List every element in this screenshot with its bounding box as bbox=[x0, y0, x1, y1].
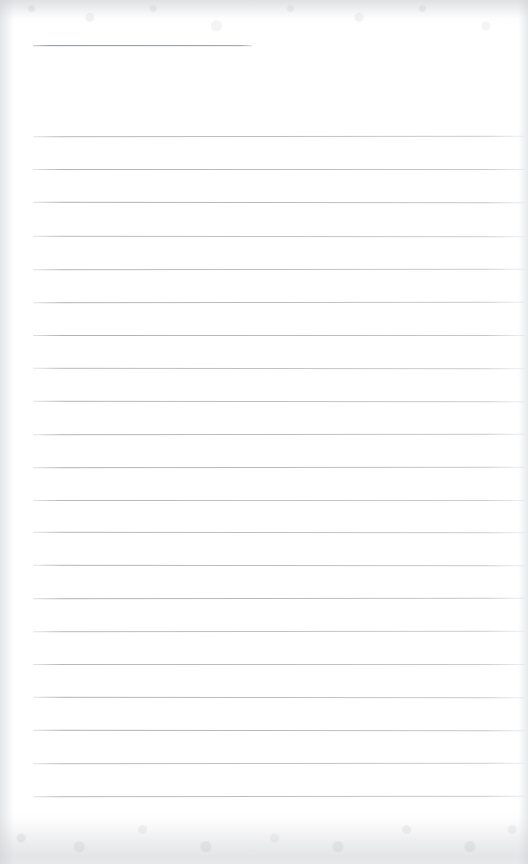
ruled-line bbox=[33, 335, 524, 336]
ruled-line bbox=[33, 500, 524, 501]
paper-background bbox=[0, 0, 528, 864]
title-rule bbox=[33, 45, 252, 46]
scanned-page bbox=[0, 0, 528, 864]
ruled-line bbox=[33, 169, 524, 170]
ruled-line bbox=[33, 664, 524, 665]
